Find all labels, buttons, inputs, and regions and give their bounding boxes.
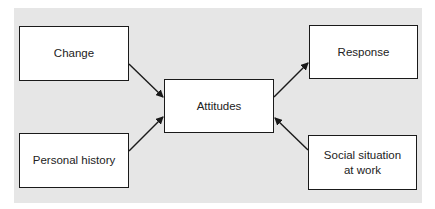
node-change-label: Change — [54, 46, 94, 60]
node-personal-history: Personal history — [19, 133, 129, 188]
node-social-situation-label-line2: at work — [344, 163, 381, 177]
node-response: Response — [309, 25, 418, 79]
node-social-situation: Social situation at work — [308, 135, 417, 190]
node-personal-history-label: Personal history — [33, 153, 115, 167]
node-response-label: Response — [338, 45, 390, 59]
node-social-situation-label-line1: Social situation — [324, 148, 401, 162]
node-attitudes: Attitudes — [164, 79, 274, 133]
node-attitudes-label: Attitudes — [197, 99, 242, 113]
node-change: Change — [19, 26, 129, 81]
